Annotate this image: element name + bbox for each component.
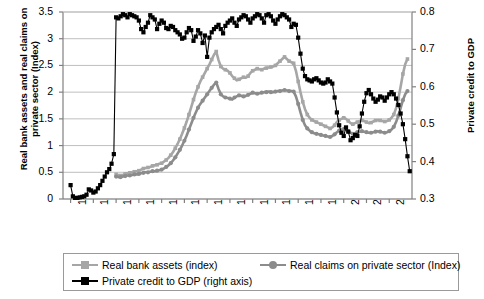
legend-item-label: Real claims on private sector (Index) xyxy=(290,259,460,271)
legend-item-label: Real bank assets (index) xyxy=(102,259,218,271)
chart-legend: Real bank assets (index)Real claims on p… xyxy=(63,253,459,291)
chart-figure: Real bank assets and real claims on priv… xyxy=(0,0,484,299)
legend-item-label: Private credit to GDP (right axis) xyxy=(102,275,252,287)
legend-marker-icon xyxy=(72,275,98,287)
legend-item[interactable]: Real bank assets (index) xyxy=(72,257,218,273)
legend-marker-icon xyxy=(72,259,98,271)
legend-item[interactable]: Private credit to GDP (right axis) xyxy=(72,273,252,289)
legend-item[interactable]: Real claims on private sector (Index) xyxy=(260,257,460,273)
legend-marker-icon xyxy=(260,259,286,271)
